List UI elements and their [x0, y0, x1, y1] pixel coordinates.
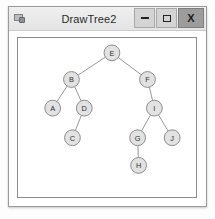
minimize-button[interactable] [134, 8, 155, 28]
maximize-icon [163, 15, 171, 22]
tree-node-label: B [69, 75, 74, 84]
tree-node-i[interactable]: I [147, 100, 163, 116]
tree-edge-d-c [75, 115, 81, 130]
tree-node-e[interactable]: E [104, 45, 120, 61]
tree-node-a[interactable]: A [45, 100, 61, 116]
app-icon-badge-shape [19, 17, 25, 23]
tree-node-h[interactable]: H [131, 157, 147, 173]
tree-edge-b-d [75, 87, 81, 101]
tree-edge-f-i [149, 87, 152, 100]
tree-node-g[interactable]: G [130, 130, 146, 146]
tree-node-label: I [153, 104, 155, 113]
minimize-icon [141, 17, 149, 19]
tree-node-label: C [70, 134, 76, 143]
tree-node-d[interactable]: D [76, 100, 92, 116]
tree-edge-e-b [78, 57, 105, 75]
window-controls: X [133, 8, 204, 28]
client-area: EBFADICGJH [9, 31, 206, 206]
application-window-icon [14, 13, 26, 25]
tree-node-label: D [82, 104, 87, 113]
tree-nodes-group: EBFADICGJH [45, 45, 180, 173]
binary-tree-diagram: EBFADICGJH [18, 38, 196, 197]
close-button[interactable]: X [178, 8, 204, 28]
tree-edge-b-a [57, 86, 67, 101]
tree-canvas-panel[interactable]: EBFADICGJH [17, 37, 197, 198]
tree-node-label: F [145, 75, 150, 84]
tree-node-label: J [170, 134, 174, 143]
title-bar[interactable]: DrawTree2 X [9, 7, 206, 31]
tree-edge-i-g [142, 115, 151, 131]
tree-node-label: E [109, 49, 114, 58]
application-window: DrawTree2 X EBFADICGJH [8, 6, 207, 207]
screen: DrawTree2 X EBFADICGJH [0, 0, 215, 219]
tree-edge-e-f [118, 58, 141, 75]
tree-node-j[interactable]: J [164, 130, 180, 146]
close-icon: X [187, 13, 194, 24]
tree-node-label: H [136, 161, 141, 170]
maximize-button[interactable] [156, 8, 177, 28]
tree-node-b[interactable]: B [64, 72, 80, 88]
tree-node-f[interactable]: F [140, 72, 156, 88]
tree-node-label: A [50, 104, 55, 113]
tree-node-label: G [135, 134, 141, 143]
tree-node-c[interactable]: C [65, 130, 81, 146]
tree-edge-i-j [158, 115, 168, 131]
